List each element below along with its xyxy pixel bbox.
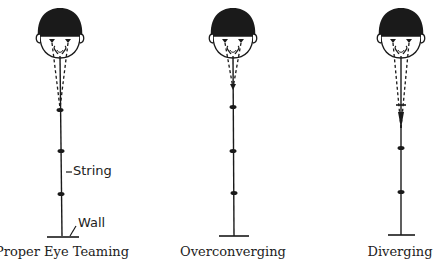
convergence-point	[398, 112, 404, 128]
bead-far	[231, 191, 238, 195]
figure-overconverging	[209, 8, 257, 236]
bead-middle	[58, 149, 65, 153]
caption-proper-eye-teaming: Proper Eye Teaming	[0, 244, 129, 259]
wall-label: Wall	[78, 215, 105, 230]
head-icon	[377, 8, 425, 58]
bead-middle	[398, 146, 405, 150]
bead-far	[58, 192, 65, 196]
convergence-point	[230, 84, 236, 90]
eye-teaming-diagram	[0, 0, 434, 263]
bead-far	[398, 190, 405, 194]
wall-label-pointer	[70, 226, 76, 236]
string-label: String	[73, 163, 112, 178]
head-icon	[209, 8, 257, 58]
head-icon	[36, 8, 84, 58]
string-line	[60, 56, 62, 236]
bead-middle	[230, 149, 237, 153]
bead-near	[230, 105, 237, 109]
bead-near	[57, 108, 64, 112]
figure-diverging	[377, 8, 425, 235]
caption-overconverging: Overconverging	[180, 244, 286, 259]
figure-proper-eye-teaming	[36, 8, 84, 237]
caption-diverging: Diverging	[367, 244, 432, 259]
